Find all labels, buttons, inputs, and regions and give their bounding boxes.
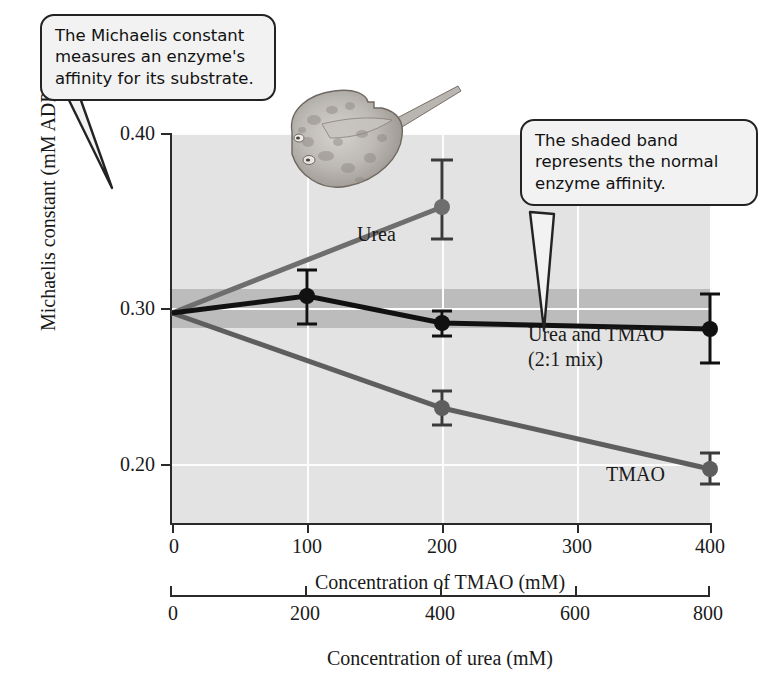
stingray-illustration bbox=[262, 76, 462, 198]
x-tick-label-300: 300 bbox=[562, 536, 592, 556]
callout-tail-shaded-band bbox=[500, 210, 620, 340]
x-tick-0 bbox=[172, 523, 174, 533]
y-tick-label-030: 0.30 bbox=[120, 298, 155, 318]
x2-tick-label-0: 0 bbox=[168, 603, 178, 623]
y-axis-title: Michaelis constant (mM ADP) bbox=[38, 85, 58, 331]
x2-tick-0 bbox=[170, 586, 172, 597]
x2-tick-label-400: 400 bbox=[425, 603, 455, 623]
x2-tick-label-600: 600 bbox=[560, 603, 590, 623]
y-tick-030: 0.30 bbox=[161, 308, 172, 310]
x-tick-label-400: 400 bbox=[695, 536, 725, 556]
series-urea-tmao-mix bbox=[172, 270, 720, 363]
callout-shaded-band: The shaded band represents the normal en… bbox=[520, 119, 758, 206]
x-tick-100 bbox=[307, 523, 309, 533]
series-label-urea: Urea bbox=[357, 223, 396, 246]
x2-tick-800 bbox=[708, 586, 710, 597]
x-tick-400 bbox=[710, 523, 712, 533]
figure-container: 0.40 0.30 0.20 0 100 200 300 400 bbox=[0, 0, 775, 686]
x-axis-secondary-title: Concentration of urea (mM) bbox=[327, 648, 553, 668]
x2-tick-label-200: 200 bbox=[290, 603, 320, 623]
y-tick-020: 0.20 bbox=[161, 464, 172, 466]
x2-tick-200 bbox=[305, 586, 307, 597]
x-tick-200 bbox=[442, 523, 444, 533]
series-label-tmao: TMAO bbox=[606, 463, 665, 486]
x-tick-label-0: 0 bbox=[169, 536, 179, 556]
x-axis-secondary: 0 200 400 600 800 bbox=[170, 595, 710, 597]
y-tick-label-020: 0.20 bbox=[120, 454, 155, 474]
x-tick-300 bbox=[577, 523, 579, 533]
x2-tick-label-800: 800 bbox=[693, 603, 723, 623]
callout-michaelis-constant: The Michaelis constant measures an enzym… bbox=[40, 14, 276, 101]
x-tick-label-100: 100 bbox=[292, 536, 322, 556]
callout-tail-michaelis bbox=[60, 88, 190, 198]
x-tick-label-200: 200 bbox=[427, 536, 457, 556]
series-label-urea-tmao-mix-line2: (2:1 mix) bbox=[528, 348, 603, 371]
x2-tick-400 bbox=[440, 586, 442, 597]
x2-tick-600 bbox=[575, 586, 577, 597]
